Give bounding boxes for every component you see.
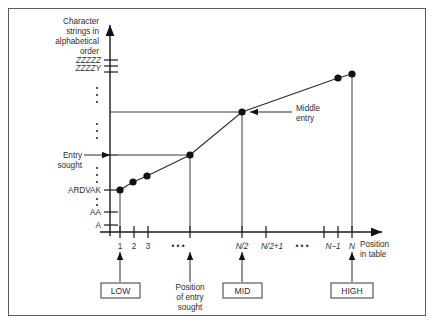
x-tick-label-n-half: N/2 <box>236 242 249 251</box>
box-high[interactable]: HIGH <box>331 283 373 298</box>
figure-page: LOW MID HIGH Character strings in alphab… <box>0 0 435 332</box>
data-points <box>116 70 355 193</box>
entry-sought-label: Entry sought <box>57 151 82 170</box>
guide-lines <box>110 74 352 232</box>
axes-group <box>100 25 382 236</box>
x-caption-line-2: in table <box>360 250 387 259</box>
pos-entry-line-3: sought <box>178 303 203 312</box>
box-low[interactable]: LOW <box>101 283 140 298</box>
y-axis-dots-middle <box>96 123 98 139</box>
y-label-a: A <box>96 221 102 230</box>
entry-sought-line-1: Entry <box>63 151 83 160</box>
x-tick-label-1: 1 <box>118 242 123 251</box>
callout-arrows <box>120 252 352 282</box>
data-point <box>186 151 193 158</box>
y-caption-line-4: order <box>80 47 99 56</box>
position-of-entry-annotation: Position of entry sought <box>175 283 205 312</box>
y-axis-dots-upper <box>96 87 98 103</box>
pos-entry-line-1: Position <box>175 283 205 292</box>
x-axis-tick-labels: 1 2 3 • • • N/2 N/2+1 • • • N−1 N <box>118 242 355 251</box>
middle-entry-annotation: Middle entry <box>296 104 321 123</box>
pos-entry-line-2: of entry <box>176 293 204 302</box>
x-tick-label-ellipsis-2: • • • <box>295 242 308 251</box>
box-low-label: LOW <box>111 286 131 296</box>
y-caption-line-2: strings in <box>66 27 99 36</box>
middle-entry-line-2: entry <box>296 114 315 123</box>
x-tick-label-n: N <box>349 242 355 251</box>
data-point <box>116 186 123 193</box>
y-axis-ticks <box>104 60 118 225</box>
y-axis-dots-lower-b <box>96 198 98 206</box>
box-high-label: HIGH <box>341 286 362 296</box>
data-point <box>348 70 355 77</box>
box-mid-label: MID <box>235 286 251 296</box>
x-tick-label-n-minus-1: N−1 <box>325 242 340 251</box>
data-point <box>238 108 245 115</box>
data-point <box>334 74 341 81</box>
y-axis-top-labels: ZZZZZ ZZZZY <box>75 56 102 73</box>
x-caption-line-1: Position <box>360 240 390 249</box>
data-point <box>129 178 136 185</box>
middle-entry-line-1: Middle <box>296 104 321 113</box>
box-mid[interactable]: MID <box>223 283 262 298</box>
y-caption-line-1: Character <box>63 17 99 26</box>
x-tick-label-ellipsis-1: • • • <box>171 242 184 251</box>
search-curve <box>120 74 352 190</box>
y-caption-line-3: alphabetical <box>55 37 99 46</box>
x-tick-label-2: 2 <box>132 242 137 251</box>
x-axis-caption: Position in table <box>360 240 390 259</box>
diagram-svg: LOW MID HIGH Character strings in alphab… <box>0 0 435 332</box>
y-label-aa: AA <box>90 208 101 217</box>
x-tick-label-3: 3 <box>146 242 151 251</box>
y-axis-dots-lower-a <box>96 167 98 183</box>
data-point <box>143 172 150 179</box>
y-label-ardvak: ARDVAK <box>68 186 102 195</box>
x-tick-label-n-half-plus-1: N/2+1 <box>261 242 283 251</box>
entry-sought-line-2: sought <box>57 161 82 170</box>
y-label-zzzzy: ZZZZY <box>75 64 102 73</box>
y-axis-caption: Character strings in alphabetical order <box>55 17 99 56</box>
